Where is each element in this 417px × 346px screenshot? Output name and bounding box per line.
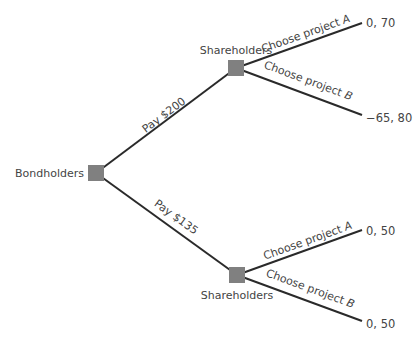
payoff-upper-b: −65, 80 <box>366 111 412 125</box>
node-bondholders <box>88 165 104 181</box>
label-pay-200: Pay $200 <box>140 95 188 136</box>
payoff-lower-b: 0, 50 <box>366 317 395 331</box>
payoff-upper-a: 0, 70 <box>366 16 395 30</box>
label-lower-choose-a: Choose project A <box>262 219 354 263</box>
label-bondholders: Bondholders <box>15 167 84 180</box>
label-upper-choose-a: Choose project A <box>260 12 352 56</box>
node-shareholders-lower <box>229 267 245 283</box>
label-upper-choose-b: Choose project B <box>262 58 354 103</box>
label-shareholders-lower: Shareholders <box>201 289 274 302</box>
edge-pay-135 <box>96 173 237 275</box>
label-lower-choose-b: Choose project B <box>264 266 356 310</box>
node-shareholders-upper <box>228 60 244 76</box>
payoff-lower-a: 0, 50 <box>366 224 395 238</box>
game-tree-diagram: Bondholders Shareholders Shareholders Pa… <box>0 0 417 346</box>
